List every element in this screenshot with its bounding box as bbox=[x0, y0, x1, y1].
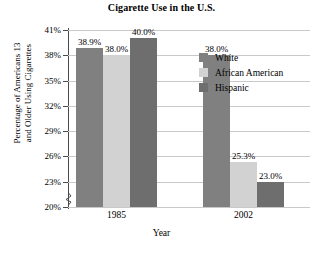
legend-label: White bbox=[215, 53, 238, 63]
y-axis-tick-label: 23% bbox=[45, 177, 62, 186]
cigarette-use-bar-chart: Cigarette Use in the U.S. Percentage of … bbox=[0, 0, 323, 263]
bar-value-label: 38.9% bbox=[78, 37, 101, 47]
y-axis-title-line-1: Percentage of Americans 13 bbox=[12, 42, 23, 143]
bar-value-label: 38.0% bbox=[105, 44, 128, 54]
gridline bbox=[68, 207, 310, 208]
y-axis-title-line-2: and Older Using Cigarettes bbox=[23, 44, 34, 142]
bar: 40.0% bbox=[130, 38, 157, 207]
legend-label: African American bbox=[215, 68, 283, 78]
legend-swatch-icon bbox=[199, 83, 208, 92]
legend-item: White bbox=[199, 50, 283, 65]
y-axis-tick-label: 32% bbox=[45, 101, 62, 110]
y-axis-tick bbox=[63, 207, 68, 208]
y-axis-title: Percentage of Americans 13 and Older Usi… bbox=[10, 8, 36, 178]
bar-value-label: 25.3% bbox=[232, 151, 255, 161]
y-axis-tick-label: 35% bbox=[45, 76, 62, 85]
bar: 38.9% bbox=[76, 48, 103, 207]
y-axis-tick-label: 20% bbox=[45, 203, 62, 212]
x-axis-tick-label: 1985 bbox=[107, 210, 126, 220]
bar: 38.0% bbox=[103, 55, 130, 207]
x-axis-title: Year bbox=[0, 228, 323, 238]
legend-item: Hispanic bbox=[199, 80, 283, 95]
legend-item: African American bbox=[199, 65, 283, 80]
y-axis-tick-label: 38% bbox=[45, 51, 62, 60]
bar-value-label: 40.0% bbox=[132, 27, 155, 37]
y-axis-tick-label: 29% bbox=[45, 127, 62, 136]
chart-title: Cigarette Use in the U.S. bbox=[0, 2, 323, 13]
bar: 25.3% bbox=[230, 162, 257, 207]
legend-label: Hispanic bbox=[215, 83, 249, 93]
x-axis-tick-label: 2002 bbox=[234, 210, 253, 220]
legend-swatch-icon bbox=[199, 68, 208, 77]
bar-value-label: 23.0% bbox=[259, 171, 282, 181]
y-axis-tick-label: 41% bbox=[45, 26, 62, 35]
legend-swatch-icon bbox=[199, 53, 208, 62]
bar: 23.0% bbox=[257, 182, 284, 207]
y-axis-tick-label: 26% bbox=[45, 152, 62, 161]
chart-legend: WhiteAfrican AmericanHispanic bbox=[199, 50, 283, 95]
